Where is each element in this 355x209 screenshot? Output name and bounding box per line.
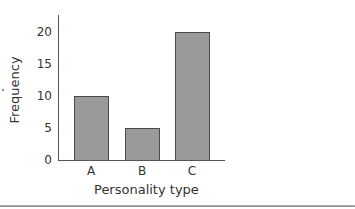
x-axis-label: Personality type [94,182,199,197]
x-axis [58,160,225,161]
bottom-divider [0,205,355,207]
bar-a [74,96,109,160]
y-tick-20: 20 [30,26,52,38]
x-tick-c: C [174,165,210,177]
decorative-mark [2,89,4,91]
bar-b [125,128,160,160]
y-tick-10: 10 [30,90,52,102]
y-axis [58,15,59,160]
y-axis-label: Frequency [7,56,22,123]
bar-chart: Frequency 20 15 10 5 0 A B C Personality… [0,0,355,209]
y-tick-15: 15 [30,58,52,70]
y-tick-5: 5 [30,122,52,134]
y-tick-0: 0 [30,154,52,166]
x-tick-a: A [73,165,109,177]
x-tick-b: B [124,165,160,177]
bar-c [175,32,210,160]
